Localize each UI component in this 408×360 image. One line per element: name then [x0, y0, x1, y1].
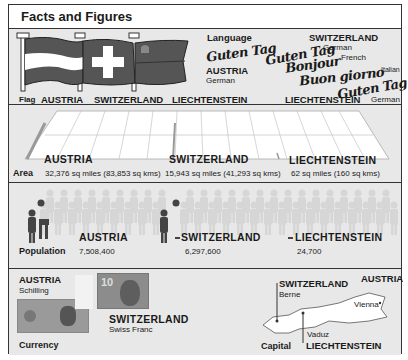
capital-austria-city: Vienna — [354, 300, 379, 309]
population-label: Population — [19, 246, 66, 256]
flag-switzerland: SWITZERLAND — [94, 94, 163, 105]
facts-figures-panel: Facts and Figures Flag AUSTRIA SWITZERLA… — [8, 4, 402, 354]
population-liechtenstein: LIECHTENSTEIN — [295, 231, 382, 243]
currency-capital-section: AUSTRIA Schilling 10 SWITZERLAND Swiss F… — [9, 269, 401, 355]
liechtenstein-population-marker — [288, 237, 293, 239]
capital-austria-country: AUSTRIA — [361, 273, 403, 284]
area-austria: AUSTRIA — [44, 153, 93, 165]
currency-austria-country: AUSTRIA — [19, 274, 61, 285]
flag-language-section: Flag AUSTRIA SWITZERLAND LIECHTENSTEIN L… — [9, 29, 401, 105]
capital-switzerland-country: SWITZERLAND — [279, 278, 348, 289]
population-austria: AUSTRIA — [79, 231, 128, 243]
currency-label: Currency — [19, 340, 59, 350]
currency-austria-name: Schilling — [19, 286, 49, 295]
area-liechtenstein: LIECHTENSTEIN — [289, 154, 376, 166]
population-switzerland-value: 6,297,600 — [185, 247, 221, 256]
capital-switzerland-city: Berne — [279, 290, 300, 299]
population-liechtenstein-value: 24,700 — [297, 247, 321, 256]
area-section: AUSTRIA SWITZERLAND LIECHTENSTEIN Area 3… — [9, 105, 401, 183]
capital-liechtenstein-city: Vaduz — [307, 330, 329, 339]
austria-language: German — [206, 76, 235, 85]
liechtenstein-language: German — [371, 95, 400, 104]
capital-label: Capital — [261, 341, 291, 351]
page-title: Facts and Figures — [21, 9, 132, 24]
liechtenstein-language-country: LIECHTENSTEIN — [285, 94, 360, 105]
swiss-language-french: French — [341, 53, 366, 62]
area-switzerland: SWITZERLAND — [169, 153, 249, 165]
swiss-language-german: German — [323, 43, 352, 52]
flag-label: Flag — [19, 95, 35, 104]
flag-austria: AUSTRIA — [41, 94, 83, 105]
note-shadow — [75, 275, 93, 309]
capital-liechtenstein-country: LIECHTENSTEIN — [306, 340, 381, 351]
language-label: Language — [207, 32, 252, 43]
area-liechtenstein-value: 62 sq miles (160 sq kms) — [291, 169, 380, 178]
area-austria-value: 32,376 sq miles (83,853 sq kms) — [45, 169, 161, 178]
population-austria-value: 7,508,400 — [79, 247, 115, 256]
population-switzerland: SWITZERLAND — [181, 231, 261, 243]
switzerland-population-marker — [175, 237, 180, 239]
currency-switzerland-country: SWITZERLAND — [109, 313, 189, 325]
flag-liechtenstein: LIECHTENSTEIN — [172, 94, 247, 105]
currency-switzerland-name: Swiss Franc — [109, 325, 153, 334]
swiss-franc-note: 10 — [97, 273, 149, 309]
title-bar: Facts and Figures — [9, 5, 401, 29]
population-section: AUSTRIA SWITZERLAND LIECHTENSTEIN Popula… — [9, 183, 401, 269]
austria-language-country: AUSTRIA — [206, 65, 248, 76]
switzerland-language-country: SWITZERLAND — [309, 32, 378, 43]
flags-illustration — [13, 31, 193, 93]
swiss-language-italian: Italian — [381, 66, 400, 73]
area-label: Area — [13, 168, 33, 178]
area-switzerland-value: 15,943 sq miles (41,293 sq kms) — [165, 169, 281, 178]
